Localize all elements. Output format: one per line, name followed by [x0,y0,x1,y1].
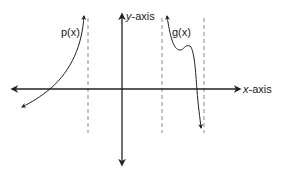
curve-p-label: p(x) [61,26,80,38]
y-axis-label: y-axis [125,10,155,22]
x-axis-label: x-axis [242,83,272,95]
curve-g-label: g(x) [172,26,191,38]
function-diagram: x-axis y-axis p(x) g(x) [0,0,284,183]
